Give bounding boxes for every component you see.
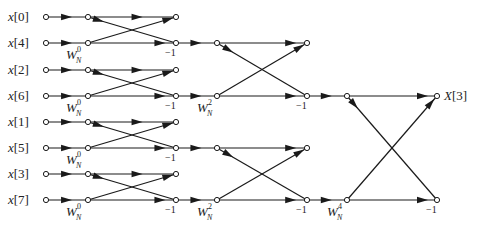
twiddle-subscript: N [75,213,82,222]
arrow-icon [190,93,201,99]
input-label-x3: x[3] [7,166,29,181]
node-circle [43,14,48,19]
node-circle [43,171,48,176]
twiddle-exponent: 2 [208,98,212,107]
node-circle [214,197,219,202]
arrow-icon [61,197,72,203]
arrow-icon [132,171,143,177]
twiddle-subscript: N [75,109,82,118]
node-circle [85,145,90,150]
minus-one-label: −1 [296,100,307,111]
twiddle-subscript: N [206,109,213,118]
input-label-x5: x[5] [7,140,29,155]
arrow-icon [162,71,173,77]
arrow-icon [154,93,165,99]
node-circle [344,197,349,202]
twiddle-exponent: 0 [77,150,81,159]
arrow-icon [162,175,173,181]
node-circle [214,93,219,98]
node-circle [43,145,48,150]
minus-one-label: −1 [426,204,437,215]
node-circle [43,40,48,45]
arrow-icon [162,123,173,129]
node-circle [85,40,90,45]
minus-one-label: −1 [165,204,176,215]
node-circle [43,197,48,202]
arrow-icon [61,67,72,73]
twiddle-exponent: 0 [77,202,81,211]
node-circle [214,40,219,45]
input-label-x0: x[0] [7,9,29,24]
node-circle [85,14,90,19]
arrow-icon [154,197,165,203]
twiddle-subscript: N [336,213,343,222]
node-circle [304,40,309,45]
arrow-icon [321,197,332,203]
fft-flow-graph: x[0]x[4]x[2]x[6]x[1]x[5]x[3]x[7]WN0−1WN0… [0,0,483,229]
node-circle [85,197,90,202]
arrow-icon [417,93,428,99]
input-label-x4: x[4] [7,35,29,50]
node-circle [344,93,349,98]
arrow-icon [61,119,72,125]
arrow-icon [321,93,332,99]
node-circle [85,119,90,124]
node-circle [173,93,178,98]
input-label-x2: x[2] [7,62,29,77]
input-label-x6: x[6] [7,88,29,103]
node-circle [434,93,439,98]
minus-one-label: −1 [165,47,176,58]
node-circle [85,93,90,98]
twiddle-exponent: 0 [77,98,81,107]
arrow-icon [190,40,201,46]
arrow-icon [417,197,428,203]
arrow-icon [190,145,201,151]
arrow-icon [162,18,173,24]
node-circle [304,197,309,202]
twiddle-subscript: N [206,213,213,222]
node-circle [304,93,309,98]
input-label-x1: x[1] [7,114,29,129]
node-circle [43,67,48,72]
minus-one-label: −1 [165,152,176,163]
twiddle-exponent: 2 [208,202,212,211]
node-circle [173,67,178,72]
arrow-icon [222,44,233,52]
arrow-icon [285,145,296,151]
arrow-icon [132,14,143,20]
arrow-icon [61,14,72,20]
node-circle [43,119,48,124]
arrow-icon [154,145,165,151]
arrow-icon [132,67,143,73]
output-label-X3: X[3] [443,88,467,103]
arrow-icon [61,40,72,46]
arrow-icon [222,149,233,157]
arrow-icon [61,93,72,99]
node-circle [173,197,178,202]
arrow-icon [190,197,201,203]
node-circle [434,197,439,202]
twiddle-subscript: N [75,56,82,65]
twiddle-subscript: N [75,161,82,170]
arrow-icon [285,40,296,46]
minus-one-label: −1 [165,100,176,111]
minus-one-label: −1 [296,204,307,215]
arrow-icon [154,40,165,46]
arrow-icon [285,197,296,203]
twiddle-exponent: 0 [77,45,81,54]
arrow-icon [293,45,304,53]
node-circle [173,14,178,19]
node-circle [173,40,178,45]
node-circle [304,145,309,150]
node-circle [85,67,90,72]
input-label-x7: x[7] [7,192,29,207]
arrow-icon [61,145,72,151]
node-circle [85,171,90,176]
twiddle-exponent: 4 [338,202,342,211]
arrow-icon [293,150,304,158]
node-circle [214,145,219,150]
node-circle [173,171,178,176]
node-circle [173,119,178,124]
arrow-icon [132,119,143,125]
arrow-icon [61,171,72,177]
